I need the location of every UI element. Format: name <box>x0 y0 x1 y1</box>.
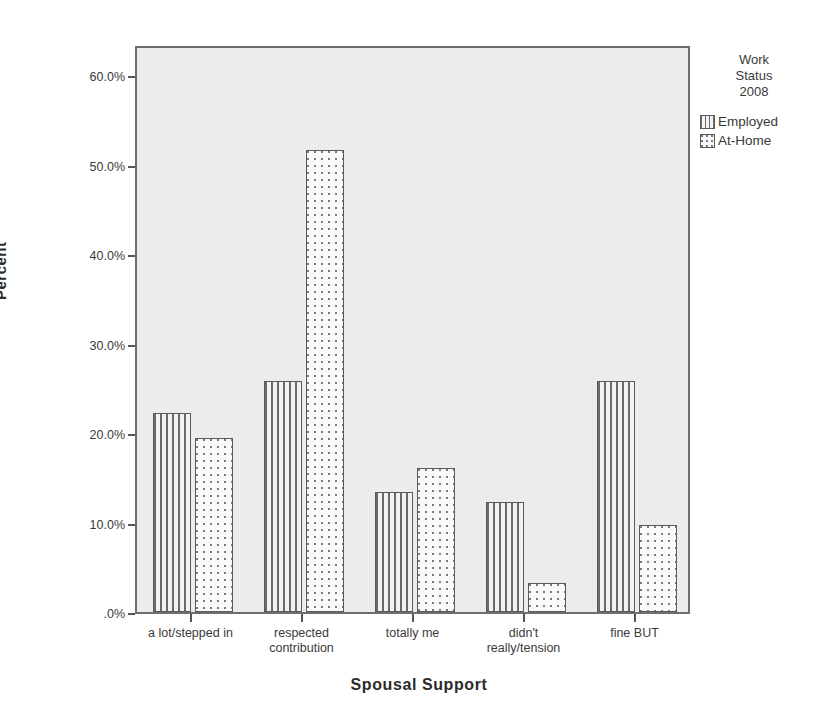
x-tick-label-line: contribution <box>227 641 377 656</box>
x-tick-mark <box>523 614 525 622</box>
bar-employed-group-2 <box>264 381 302 612</box>
legend-item-at-home[interactable]: At-Home <box>700 131 832 150</box>
bar-employed-group-1 <box>153 413 191 612</box>
bar-at-home-group-3 <box>417 468 455 612</box>
y-tick-label: 30.0% <box>90 339 125 353</box>
legend: WorkStatus2008 EmployedAt-Home <box>700 52 832 150</box>
legend-title-line: Work <box>706 52 802 68</box>
y-tick-label: 20.0% <box>90 428 125 442</box>
legend-item-employed[interactable]: Employed <box>700 112 832 131</box>
y-tick-mark <box>128 434 135 436</box>
bar-at-home-group-4 <box>528 583 566 612</box>
bar-at-home-group-1 <box>195 438 233 612</box>
plot-inner <box>137 48 688 612</box>
legend-swatch-icon <box>700 134 715 148</box>
bar-employed-group-3 <box>375 492 413 612</box>
bar-at-home-group-2 <box>306 150 344 612</box>
bar-chart: Percent .0%10.0%20.0%30.0%40.0%50.0%60.0… <box>0 0 838 717</box>
y-tick-label: .0% <box>103 607 125 621</box>
x-tick-mark <box>412 614 414 622</box>
y-tick-mark <box>128 166 135 168</box>
x-tick-label: fine BUT <box>560 626 710 641</box>
legend-item-label: At-Home <box>718 133 771 148</box>
y-tick-mark <box>128 613 135 615</box>
x-tick-mark <box>301 614 303 622</box>
x-tick-mark <box>634 614 636 622</box>
y-tick-label: 40.0% <box>90 249 125 263</box>
y-tick-label: 10.0% <box>90 518 125 532</box>
legend-item-label: Employed <box>718 114 778 129</box>
x-tick-label-line: fine BUT <box>560 626 710 641</box>
legend-title: WorkStatus2008 <box>706 52 802 100</box>
y-tick-mark <box>128 524 135 526</box>
y-tick-mark <box>128 76 135 78</box>
x-tick-label-line: really/tension <box>449 641 599 656</box>
x-axis-title: Spousal Support <box>0 676 838 694</box>
y-tick-mark <box>128 345 135 347</box>
legend-title-line: 2008 <box>706 84 802 100</box>
bar-employed-group-4 <box>486 502 524 612</box>
plot-area <box>135 46 690 614</box>
y-tick-label: 50.0% <box>90 160 125 174</box>
legend-swatch-icon <box>700 115 715 129</box>
y-tick-label: 60.0% <box>90 70 125 84</box>
y-axis-title: Percent <box>0 241 9 300</box>
bar-at-home-group-5 <box>639 525 677 612</box>
y-tick-mark <box>128 255 135 257</box>
legend-items: EmployedAt-Home <box>700 112 832 150</box>
x-tick-mark <box>190 614 192 622</box>
bar-employed-group-5 <box>597 381 635 612</box>
legend-title-line: Status <box>706 68 802 84</box>
